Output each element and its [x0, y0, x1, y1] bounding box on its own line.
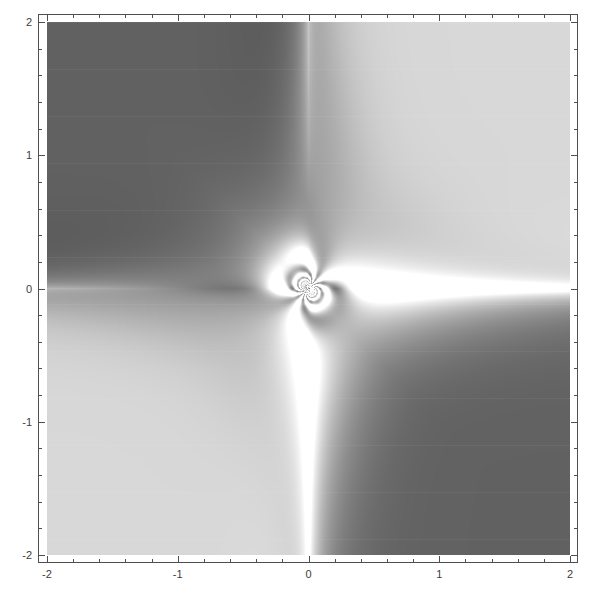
x-tick-label: 2 — [567, 568, 573, 580]
x-minor-tick-top — [125, 15, 126, 18]
y-minor-tick-right — [574, 368, 577, 369]
y-minor-tick — [39, 475, 42, 476]
x-major-tick — [570, 556, 571, 562]
x-major-tick-top — [309, 15, 310, 21]
y-minor-tick — [39, 502, 42, 503]
y-minor-tick-right — [574, 102, 577, 103]
y-minor-tick-right — [574, 395, 577, 396]
x-minor-tick — [465, 559, 466, 562]
y-minor-tick — [39, 262, 42, 263]
x-minor-tick — [152, 559, 153, 562]
y-minor-tick-right — [574, 129, 577, 130]
x-minor-tick-top — [152, 15, 153, 18]
x-major-tick — [178, 556, 179, 562]
x-minor-tick — [544, 559, 545, 562]
x-minor-tick-top — [282, 15, 283, 18]
x-minor-tick — [335, 559, 336, 562]
x-minor-tick-top — [361, 15, 362, 18]
y-tick-label: 2 — [26, 16, 32, 28]
y-major-tick — [39, 289, 45, 290]
y-major-tick-right — [571, 555, 577, 556]
y-minor-tick — [39, 129, 42, 130]
x-tick-label: 1 — [436, 568, 442, 580]
y-minor-tick — [39, 315, 42, 316]
x-major-tick — [47, 556, 48, 562]
x-tick-label: -1 — [173, 568, 183, 580]
x-tick-label: -2 — [42, 568, 52, 580]
x-major-tick-top — [47, 15, 48, 21]
x-minor-tick — [125, 559, 126, 562]
x-tick-label: 0 — [305, 568, 311, 580]
x-minor-tick — [73, 559, 74, 562]
y-tick-label: -2 — [22, 549, 32, 561]
x-minor-tick — [99, 559, 100, 562]
y-minor-tick-right — [574, 75, 577, 76]
x-minor-tick — [282, 559, 283, 562]
y-minor-tick-right — [574, 342, 577, 343]
y-minor-tick — [39, 368, 42, 369]
y-minor-tick-right — [574, 475, 577, 476]
x-minor-tick-top — [465, 15, 466, 18]
x-minor-tick — [256, 559, 257, 562]
y-major-tick — [39, 555, 45, 556]
y-tick-label: 1 — [26, 149, 32, 161]
y-minor-tick-right — [574, 235, 577, 236]
y-minor-tick-right — [574, 502, 577, 503]
x-minor-tick — [387, 559, 388, 562]
y-minor-tick-right — [574, 315, 577, 316]
x-minor-tick-top — [518, 15, 519, 18]
x-minor-tick-top — [99, 15, 100, 18]
y-tick-label: 0 — [26, 283, 32, 295]
x-minor-tick — [492, 559, 493, 562]
y-minor-tick-right — [574, 182, 577, 183]
x-minor-tick — [413, 559, 414, 562]
y-major-tick-right — [571, 289, 577, 290]
density-heatmap-canvas — [47, 22, 570, 555]
y-minor-tick — [39, 49, 42, 50]
y-minor-tick — [39, 235, 42, 236]
x-major-tick-top — [570, 15, 571, 21]
y-major-tick-right — [571, 155, 577, 156]
x-minor-tick-top — [387, 15, 388, 18]
x-minor-tick-top — [544, 15, 545, 18]
y-minor-tick-right — [574, 448, 577, 449]
x-minor-tick — [204, 559, 205, 562]
x-minor-tick-top — [413, 15, 414, 18]
y-minor-tick-right — [574, 209, 577, 210]
density-plot-figure: -2-1012 -2-1012 — [0, 0, 602, 599]
y-minor-tick-right — [574, 528, 577, 529]
y-minor-tick — [39, 448, 42, 449]
x-major-tick-top — [439, 15, 440, 21]
x-minor-tick — [230, 559, 231, 562]
x-major-tick — [439, 556, 440, 562]
y-major-tick-right — [571, 22, 577, 23]
x-minor-tick-top — [230, 15, 231, 18]
x-major-tick — [309, 556, 310, 562]
y-minor-tick — [39, 342, 42, 343]
y-minor-tick — [39, 182, 42, 183]
x-minor-tick-top — [256, 15, 257, 18]
x-minor-tick — [361, 559, 362, 562]
x-minor-tick-top — [204, 15, 205, 18]
y-major-tick — [39, 422, 45, 423]
y-minor-tick — [39, 528, 42, 529]
x-major-tick-top — [178, 15, 179, 21]
y-minor-tick-right — [574, 49, 577, 50]
x-minor-tick — [518, 559, 519, 562]
x-minor-tick-top — [73, 15, 74, 18]
y-minor-tick — [39, 395, 42, 396]
y-minor-tick — [39, 102, 42, 103]
y-major-tick-right — [571, 422, 577, 423]
y-major-tick — [39, 155, 45, 156]
y-minor-tick — [39, 209, 42, 210]
x-minor-tick-top — [335, 15, 336, 18]
y-major-tick — [39, 22, 45, 23]
y-minor-tick-right — [574, 262, 577, 263]
y-tick-label: -1 — [22, 416, 32, 428]
x-minor-tick-top — [492, 15, 493, 18]
y-minor-tick — [39, 75, 42, 76]
